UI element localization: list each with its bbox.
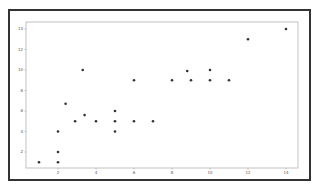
y-tick-label: 10 <box>18 67 24 72</box>
data-point <box>114 120 117 123</box>
data-point <box>38 161 41 164</box>
plot-area <box>26 22 298 168</box>
data-point <box>228 79 231 82</box>
data-point <box>57 151 60 154</box>
y-tick-label: 2 <box>20 149 23 154</box>
data-point <box>114 130 117 133</box>
data-point <box>209 69 212 72</box>
data-point <box>171 79 174 82</box>
x-tick-label: 10 <box>207 170 213 175</box>
x-axis-ticks: 2468101214 <box>57 168 289 175</box>
x-tick-label: 4 <box>95 170 98 175</box>
data-point <box>190 79 193 82</box>
data-point <box>114 110 117 113</box>
data-point <box>186 70 189 73</box>
y-tick-label: 12 <box>18 47 24 52</box>
data-point <box>152 120 155 123</box>
data-point <box>209 79 212 82</box>
x-tick-label: 2 <box>57 170 60 175</box>
scatter-chart: 2468101214 2468101214 <box>0 0 320 191</box>
data-point <box>83 114 86 117</box>
data-point <box>247 38 250 41</box>
data-point <box>57 130 60 133</box>
x-tick-label: 6 <box>133 170 136 175</box>
data-point <box>64 103 67 106</box>
x-tick-label: 12 <box>245 170 251 175</box>
data-point <box>57 161 60 164</box>
data-point <box>95 120 98 123</box>
x-tick-label: 8 <box>171 170 174 175</box>
y-tick-label: 4 <box>20 129 23 134</box>
y-axis-ticks: 2468101214 <box>18 26 26 154</box>
data-point <box>133 120 136 123</box>
data-point <box>81 69 84 72</box>
y-tick-label: 14 <box>18 26 24 31</box>
data-point <box>285 28 288 31</box>
data-point <box>133 79 136 82</box>
y-tick-label: 6 <box>20 108 23 113</box>
data-point <box>74 120 77 123</box>
y-tick-label: 8 <box>20 88 23 93</box>
x-tick-label: 14 <box>283 170 289 175</box>
